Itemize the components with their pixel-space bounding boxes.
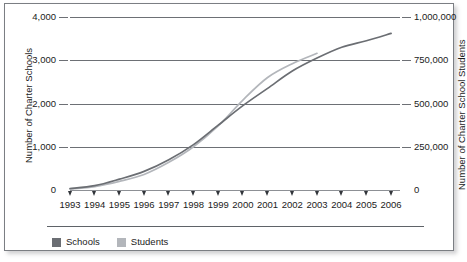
right-tick-dash xyxy=(402,17,411,18)
right-tick-dash xyxy=(402,104,411,105)
x-tick-marker xyxy=(339,191,343,196)
legend-swatch-icon xyxy=(52,238,61,247)
x-tick-marker xyxy=(389,191,393,196)
chart-figure: Number of Charter Schools Number of Char… xyxy=(0,0,467,262)
x-tick-marker xyxy=(142,191,146,196)
x-tick-marker xyxy=(117,191,121,196)
right-axis-title: Number of Charter School Students xyxy=(456,40,467,191)
x-tick-marker xyxy=(191,191,195,196)
right-tick-label: 750,000 xyxy=(414,55,448,65)
series-line-schools xyxy=(70,33,391,188)
legend-item-students: Students xyxy=(117,237,169,247)
left-tick-label: 4,000 xyxy=(32,12,56,22)
left-tick-dash xyxy=(59,60,68,61)
left-tick-dash xyxy=(59,104,68,105)
legend-item-schools: Schools xyxy=(52,237,100,247)
right-tick-label: 250,000 xyxy=(414,142,448,152)
x-tick-label: 2006 xyxy=(374,199,408,210)
x-tick-marker xyxy=(166,191,170,196)
left-tick-dash xyxy=(59,147,68,148)
legend-label: Students xyxy=(131,237,169,247)
x-tick-marker xyxy=(364,191,368,196)
series-line-students xyxy=(70,53,317,189)
legend-divider xyxy=(47,226,424,227)
chart-legend: SchoolsStudents xyxy=(52,237,168,247)
x-tick-marker xyxy=(290,191,294,196)
right-tick-label: 500,000 xyxy=(414,99,448,109)
x-tick-marker xyxy=(265,191,269,196)
right-tick-label: 1,000,000 xyxy=(414,12,456,22)
x-tick-marker xyxy=(216,191,220,196)
left-tick-label: 2,000 xyxy=(32,99,56,109)
x-tick-marker xyxy=(315,191,319,196)
x-tick-marker xyxy=(240,191,244,196)
left-tick-label: 0 xyxy=(51,185,56,195)
right-tick-dash xyxy=(402,147,411,148)
legend-label: Schools xyxy=(66,237,100,247)
x-tick-marker xyxy=(92,191,96,196)
x-tick-marker xyxy=(68,191,72,196)
legend-swatch-icon xyxy=(117,238,126,247)
right-tick-label: 0 xyxy=(414,185,419,195)
series-lines xyxy=(70,17,400,190)
right-tick-dash xyxy=(402,60,411,61)
chart-frame: Number of Charter Schools Number of Char… xyxy=(4,3,454,251)
left-tick-label: 3,000 xyxy=(32,55,56,65)
left-tick-dash xyxy=(59,17,68,18)
left-tick-label: 1,000 xyxy=(32,142,56,152)
plot-area: 01,0002,0003,0004,000 0250,000500,000750… xyxy=(70,17,400,190)
